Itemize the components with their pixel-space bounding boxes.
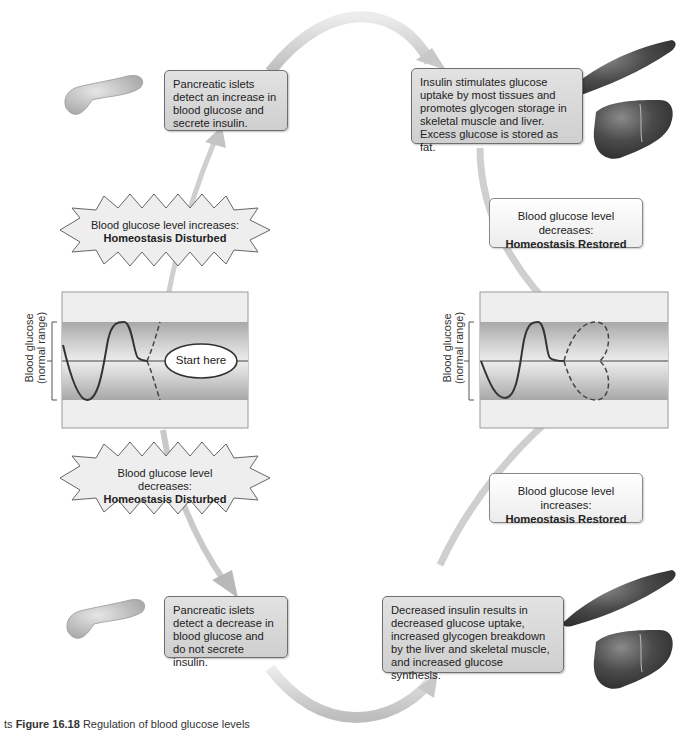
burst-line1: Blood glucose level decreases: bbox=[118, 467, 213, 492]
muscle-icon-bottom bbox=[563, 570, 676, 627]
liver-icon-bottom bbox=[594, 630, 673, 689]
box-text: Pancreatic islets detect an increase in … bbox=[173, 78, 276, 129]
status-line1: Blood glucose level decreases: bbox=[518, 210, 614, 236]
ylabel-line2: (normal range) bbox=[453, 312, 465, 384]
caption-label: Figure 16.18 bbox=[16, 718, 80, 730]
liver-icon-top bbox=[594, 100, 673, 159]
status-line2: Homeostasis Restored bbox=[496, 512, 636, 526]
left-graph-ylabel: Blood glucose (normal range) bbox=[23, 293, 47, 403]
start-here-label: Start here bbox=[165, 354, 237, 366]
status-line1: Blood glucose level increases: bbox=[518, 485, 614, 511]
caption-prefix: ts bbox=[4, 718, 13, 730]
pancreas-icon-top bbox=[65, 75, 143, 114]
burst-upper-text: Blood glucose level increases: Homeostas… bbox=[90, 219, 240, 245]
caption-text: Regulation of blood glucose levels bbox=[83, 718, 250, 730]
burst-line2: Homeostasis Disturbed bbox=[90, 232, 240, 245]
burst-lower-text: Blood glucose level decreases: Homeostas… bbox=[90, 467, 240, 506]
ylabel-line1: Blood glucose bbox=[23, 313, 35, 382]
right-graph-ylabel: Blood glucose (normal range) bbox=[441, 293, 465, 403]
box-decreased-insulin-results: Decreased insulin results in decreased g… bbox=[382, 596, 564, 673]
burst-line1: Blood glucose level increases: bbox=[91, 219, 239, 231]
box-text: Insulin stimulates glucose uptake by mos… bbox=[420, 76, 567, 153]
box-text: Decreased insulin results in decreased g… bbox=[391, 604, 550, 681]
figure-caption: ts Figure 16.18 Regulation of blood gluc… bbox=[4, 718, 250, 730]
status-line2: Homeostasis Restored bbox=[496, 237, 636, 251]
box-islets-detect-decrease: Pancreatic islets detect a decrease in b… bbox=[164, 596, 288, 658]
burst-line2: Homeostasis Disturbed bbox=[90, 493, 240, 506]
ylabel-line2: (normal range) bbox=[35, 312, 47, 384]
arrow-top-curve bbox=[270, 17, 446, 72]
pancreas-icon-bottom bbox=[67, 599, 145, 638]
ylabel-line1: Blood glucose bbox=[441, 313, 453, 382]
status-restored-upper: Blood glucose level decreases: Homeostas… bbox=[489, 198, 643, 248]
status-restored-lower: Blood glucose level increases: Homeostas… bbox=[489, 473, 643, 523]
box-insulin-stimulates-uptake: Insulin stimulates glucose uptake by mos… bbox=[411, 68, 583, 144]
box-islets-detect-increase: Pancreatic islets detect an increase in … bbox=[164, 70, 288, 131]
right-glucose-graph bbox=[464, 292, 668, 428]
